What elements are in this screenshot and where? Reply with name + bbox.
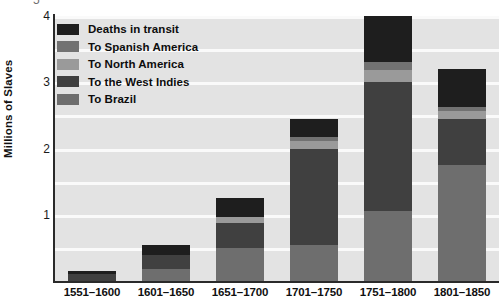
bar-segment — [438, 69, 486, 107]
legend-item: Deaths in transit — [57, 22, 198, 36]
legend-label: Deaths in transit — [88, 23, 179, 35]
bar-1751-1800 — [364, 16, 412, 281]
x-tick-label: 1801–1850 — [425, 286, 499, 306]
bar-segment — [290, 245, 338, 281]
chart-figure: 5 Millions of Slaves 1234 Deaths in tran… — [0, 0, 504, 307]
legend-swatch-icon — [57, 94, 79, 105]
gridline — [55, 248, 499, 251]
bar-segment — [364, 82, 412, 211]
gridline — [55, 215, 499, 218]
bar-1551-1600 — [68, 271, 116, 281]
bar-segment — [364, 62, 412, 70]
bar-segment — [438, 165, 486, 281]
gridline — [55, 16, 499, 19]
bar-segment — [68, 274, 116, 281]
x-tick-label: 1551–1600 — [55, 286, 129, 306]
legend-item: To Spanish America — [57, 40, 198, 54]
bar-segment — [290, 149, 338, 245]
legend-item: To the West Indies — [57, 75, 198, 89]
x-tick-label: 1701–1750 — [277, 286, 351, 306]
legend-swatch-icon — [57, 24, 79, 35]
legend-label: To Brazil — [88, 93, 136, 105]
bar-1701-1750 — [290, 119, 338, 281]
bar-segment — [290, 119, 338, 138]
y-tick-label-2: 2 — [24, 142, 50, 156]
y-tick-label-4: 4 — [24, 9, 50, 23]
x-axis-line — [53, 281, 499, 283]
bar-segment — [216, 223, 264, 248]
legend-swatch-icon — [57, 59, 79, 70]
legend-item: To North America — [57, 57, 198, 71]
y-tick-label-3: 3 — [24, 75, 50, 89]
legend-item: To Brazil — [57, 92, 198, 106]
bar-segment — [216, 198, 264, 217]
bar-segment — [364, 211, 412, 281]
bar-segment — [142, 269, 190, 281]
y-axis-tick-labels: 1234 — [20, 0, 50, 307]
bar-segment — [364, 70, 412, 82]
bar-1801-1850 — [438, 69, 486, 281]
gridline — [55, 115, 499, 118]
legend-label: To the West Indies — [88, 76, 189, 88]
chart-legend: Deaths in transitTo Spanish AmericaTo No… — [57, 22, 198, 110]
bar-segment — [364, 16, 412, 62]
legend-label: To Spanish America — [88, 41, 198, 53]
gridline — [55, 149, 499, 152]
legend-swatch-icon — [57, 76, 79, 87]
x-tick-label: 1601–1650 — [129, 286, 203, 306]
bar-segment — [438, 119, 486, 165]
bar-segment — [216, 248, 264, 281]
bar-segment — [438, 111, 486, 119]
bar-segment — [142, 255, 190, 270]
bar-1601-1650 — [142, 245, 190, 281]
x-tick-label: 1651–1700 — [203, 286, 277, 306]
gridline — [55, 182, 499, 185]
legend-label: To North America — [88, 58, 184, 70]
bar-1651-1700 — [216, 198, 264, 281]
x-axis-category-labels: 1551–16001601–16501651–17001701–17501751… — [55, 286, 499, 306]
y-tick-label-1: 1 — [24, 208, 50, 222]
bar-segment — [142, 245, 190, 255]
legend-swatch-icon — [57, 41, 79, 52]
y-axis-title: Millions of Slaves — [2, 18, 14, 158]
x-tick-label: 1751–1800 — [351, 286, 425, 306]
bar-segment — [290, 141, 338, 149]
